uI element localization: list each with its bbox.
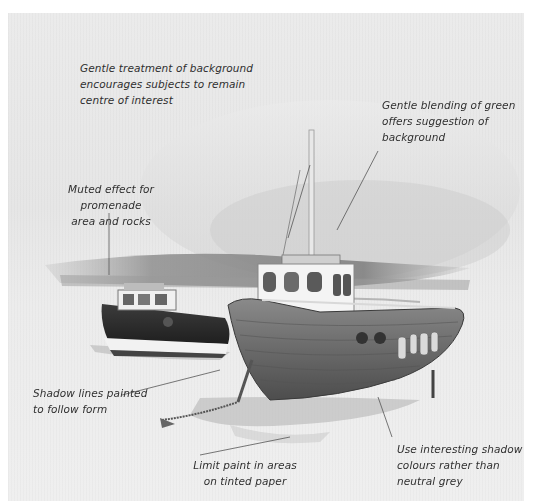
annotation-promenade: Muted effect for promenade area and rock… <box>36 181 186 229</box>
annotation-shadow-colours: Use interesting shadow colours rather th… <box>397 441 522 489</box>
leader-limit-paint <box>200 437 290 455</box>
small-boat <box>102 283 230 358</box>
annotation-green-blending: Gentle blending of green offers suggesti… <box>382 97 515 145</box>
annotation-background: Gentle treatment of background encourage… <box>80 60 253 108</box>
annotation-limit-paint: Limit paint in areas on tinted paper <box>185 457 305 489</box>
annotation-shadow-lines: Shadow lines painted to follow form <box>33 385 147 417</box>
